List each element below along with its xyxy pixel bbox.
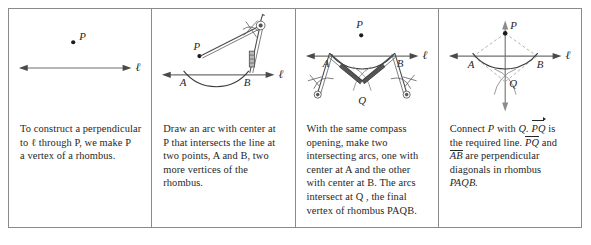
point-p-dot	[359, 33, 363, 37]
line-l-arrowhead-right	[123, 65, 132, 71]
line-l-label: ℓ	[135, 60, 140, 74]
panel-1-diagram: P ℓ	[9, 9, 151, 117]
point-b-label: B	[244, 76, 251, 88]
line-l-label: ℓ	[279, 67, 284, 81]
line-l-arrowhead-right	[552, 53, 561, 59]
caption-line-pq-overlined: PQ	[532, 122, 546, 136]
panel-step-4: ℓ P A B Q Connect P with Q. PQ is the re…	[439, 9, 581, 227]
caption-line-5: with center at B. The arcs	[307, 177, 416, 188]
caption-segment-pq-overlined: PQ	[525, 136, 539, 148]
caption-line-4: more vertices of the	[163, 164, 248, 175]
point-a-label: A	[466, 58, 474, 70]
caption-segment-ab-overlined: AB	[450, 150, 463, 162]
caption-line-2: P that intersects the line at	[163, 137, 275, 148]
compass-hinge-pin	[259, 24, 262, 27]
point-p-dot	[71, 40, 75, 44]
compass-at-p	[201, 15, 266, 73]
compass-b-brace-2	[404, 75, 414, 87]
point-q-label: Q	[358, 94, 366, 106]
panel-2-diagram: ℓ P A B	[152, 9, 294, 117]
caption-text-perpendicular: are perpendicular	[463, 150, 540, 161]
rhombus-side-pa	[473, 33, 505, 56]
line-l-arrowhead-left	[305, 53, 314, 59]
point-q-label: Q	[509, 77, 517, 89]
figure-frame: P ℓ To construct a perpendicular to ℓ th…	[8, 8, 582, 228]
line-l-arrowhead-left	[19, 65, 28, 71]
perpendicular-arrowhead-top	[502, 21, 508, 30]
line-l-arrowhead-left	[162, 72, 171, 78]
line-l-arrowhead-left	[449, 53, 458, 59]
panel-3-caption: With the same compass opening, make two …	[307, 122, 429, 217]
panel-3-diagram: P ℓ A B Q	[296, 9, 438, 117]
caption-line-5: rhombus.	[163, 177, 203, 188]
caption-line-1: Draw an arc with center at	[163, 123, 276, 134]
caption-symbol-paqb: PAQB.	[450, 177, 478, 188]
panel-4-caption: Connect P with Q. PQ is the required lin…	[450, 122, 572, 190]
caption-line-1: To construct a perpendicular	[20, 123, 141, 134]
panel-1-caption: To construct a perpendicular to ℓ throug…	[20, 122, 142, 163]
compass-handle	[261, 15, 265, 22]
compass-b-hinge-pin	[405, 93, 408, 96]
caption-line-4: center at A and the other	[307, 164, 411, 175]
compass-b-pencil-barrel	[362, 64, 385, 84]
line-l-arrowhead-right	[266, 72, 275, 78]
compass-at-a	[307, 53, 361, 98]
arc-through-ab	[184, 71, 249, 87]
line-l-label: ℓ	[422, 48, 427, 62]
compass-a-hinge-pin	[316, 93, 319, 96]
caption-text-required-line: the required line.	[450, 137, 525, 148]
perpendicular-arrowhead-bottom	[502, 103, 508, 112]
caption-line-2: opening, make two	[307, 137, 388, 148]
caption-line-7: vertex of rhombus PAQB.	[307, 205, 417, 216]
caption-text-and: and	[539, 137, 557, 148]
panel-2-caption: Draw an arc with center at P that inters…	[163, 122, 285, 190]
point-p-label: P	[355, 18, 363, 30]
point-a-label: A	[179, 76, 187, 88]
rhombus-side-pb	[505, 33, 537, 56]
point-p-dot	[503, 31, 508, 36]
panel-step-1: P ℓ To construct a perpendicular to ℓ th…	[9, 9, 152, 227]
caption-text-with: with	[494, 123, 518, 134]
panel-4-diagram: ℓ P A B Q	[439, 9, 581, 117]
panel-step-2: ℓ P A B	[152, 9, 295, 227]
caption-line-1: With the same compass	[307, 123, 407, 134]
line-l-label: ℓ	[565, 48, 570, 62]
caption-line-3: two points, A and B, two	[163, 150, 268, 161]
caption-symbol-q: Q.	[519, 123, 529, 134]
compass-at-b	[362, 53, 416, 98]
point-b-label: B	[537, 58, 544, 70]
caption-text-connect: Connect	[450, 123, 488, 134]
compass-a-brace-2	[309, 75, 319, 87]
compass-a-pencil-barrel	[339, 64, 362, 84]
line-l-arrowhead-right	[409, 53, 418, 59]
panel-step-3: P ℓ A B Q	[296, 9, 439, 227]
point-p-label: P	[78, 30, 86, 42]
caption-line-2: to ℓ through P, we make P	[20, 137, 131, 148]
caption-line-3: intersecting arcs, one with	[307, 150, 419, 161]
caption-line-6: intersect at Q , the final	[307, 191, 407, 202]
caption-text-diagonals: diagonals in rhombus	[450, 164, 541, 175]
caption-text-is: is	[546, 123, 556, 134]
caption-line-3: a vertex of a rhombus.	[20, 150, 115, 161]
point-p-label: P	[193, 40, 201, 52]
point-p-label: P	[509, 19, 517, 31]
